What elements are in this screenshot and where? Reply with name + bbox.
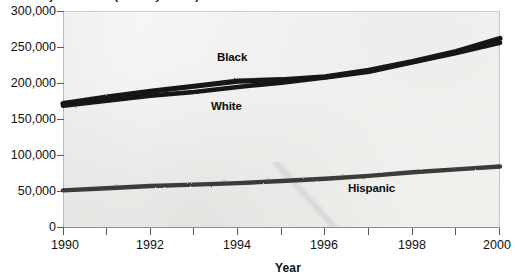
series-line-hispanic [63,167,500,191]
series-label-white: White [211,100,242,112]
series-label-hispanic: Hispanic [348,182,395,194]
chart-figure: of jail inmates (one-day count) 300,000 … [0,0,515,279]
series-label-black: Black [217,51,247,63]
series-line-black [63,38,500,103]
series-lines [0,0,515,279]
series-line-white [63,43,500,106]
